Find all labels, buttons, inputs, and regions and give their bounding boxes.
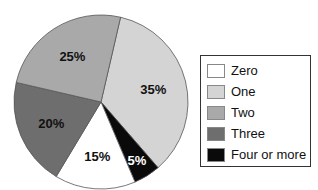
slice-label: 5% bbox=[128, 153, 147, 168]
legend-swatch bbox=[207, 85, 225, 99]
slice-label: 15% bbox=[84, 149, 110, 164]
slice-label: 25% bbox=[59, 49, 85, 64]
legend-item-three: Three bbox=[207, 123, 310, 144]
legend: Zero One Two Three Four or more bbox=[200, 55, 311, 167]
slice-label: 20% bbox=[38, 116, 64, 131]
legend-swatch bbox=[207, 148, 225, 162]
legend-item-two: Two bbox=[207, 102, 310, 123]
legend-swatch bbox=[207, 127, 225, 141]
legend-label: One bbox=[231, 84, 256, 99]
legend-label: Four or more bbox=[231, 147, 306, 162]
slice-label: 35% bbox=[140, 82, 166, 97]
legend-label: Three bbox=[231, 126, 265, 141]
legend-label: Zero bbox=[231, 63, 258, 78]
legend-item-four-or-more: Four or more bbox=[207, 144, 310, 165]
pie-chart: 35%5%15%20%25% bbox=[0, 0, 200, 190]
legend-item-zero: Zero bbox=[207, 60, 310, 81]
legend-swatch bbox=[207, 64, 225, 78]
legend-swatch bbox=[207, 106, 225, 120]
legend-label: Two bbox=[231, 105, 255, 120]
legend-item-one: One bbox=[207, 81, 310, 102]
